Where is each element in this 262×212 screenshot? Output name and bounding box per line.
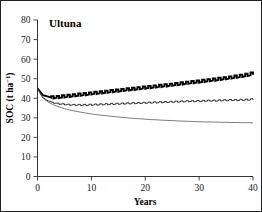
y-tick-label: 80	[21, 15, 31, 25]
figure-panel: 01020304050607080 010203040 Ultuna Years…	[0, 0, 262, 212]
svg-text:SOC (t ha−1): SOC (t ha−1)	[4, 73, 16, 124]
x-axis-ticks: 010203040	[35, 177, 258, 194]
y-axis-title-main: SOC (t ha	[5, 83, 16, 124]
y-axis-title: SOC (t ha−1)	[4, 73, 16, 124]
data-series-group	[38, 72, 254, 122]
x-tick-label: 20	[141, 183, 151, 193]
y-tick-label: 40	[21, 94, 31, 104]
x-tick-label: 0	[35, 183, 40, 193]
y-tick-label: 70	[21, 35, 31, 45]
y-tick-label: 10	[21, 152, 31, 162]
panel-title: Ultuna	[49, 17, 82, 29]
x-axis-title: Years	[134, 197, 157, 207]
soc-line-chart: 01020304050607080 010203040 Ultuna Years…	[1, 1, 262, 212]
y-axis-ticks: 01020304050607080	[21, 15, 38, 182]
y-tick-label: 50	[21, 74, 31, 84]
y-tick-label: 20	[21, 133, 31, 143]
y-tick-label: 0	[26, 172, 31, 182]
x-tick-label: 10	[87, 183, 97, 193]
x-tick-label: 30	[194, 183, 204, 193]
y-axis-title-tail: )	[5, 73, 16, 76]
y-tick-label: 30	[21, 113, 31, 123]
series-upper-thick-increasing	[38, 72, 254, 98]
x-tick-label: 40	[248, 183, 258, 193]
y-axis-title-superscript: −1	[4, 76, 11, 83]
y-tick-label: 60	[21, 55, 31, 65]
